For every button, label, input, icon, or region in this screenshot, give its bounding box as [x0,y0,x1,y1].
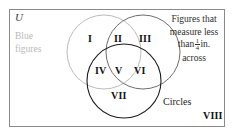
region-label-VII: VII [111,90,127,101]
small-figures-line-2: measure less [170,27,218,37]
fraction-denominator: 4 [195,45,200,52]
region-label-II: II [114,33,122,44]
region-label-I: I [88,33,92,44]
small-figures-line-1: Figures that [171,14,216,24]
region-label-VI: VI [134,65,146,76]
one-quarter-fraction: 14 [195,38,200,52]
small-figures-label: Figures that measure less than14in. acro… [161,13,227,65]
blue-figures-label: Blue figures [15,30,61,56]
universe-set-label: U [15,12,23,24]
region-label-III: III [139,33,151,44]
small-figures-line-3-suffix: in. [200,39,210,49]
region-label-VIII: VIII [203,110,223,121]
venn-diagram-figure: U Blue figures Figures that measure less… [0,0,234,137]
region-label-IV: IV [95,65,107,76]
circles-set-label: Circles [163,97,191,108]
small-figures-line-4: across [182,53,206,63]
region-label-V: V [115,65,122,76]
small-figures-line-3-prefix: than [178,39,194,49]
